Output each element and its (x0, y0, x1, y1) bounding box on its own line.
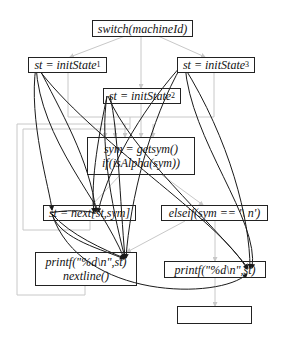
exit-node (177, 306, 252, 324)
printf-right-text: printf("%d\n",st) (174, 263, 255, 277)
init-state-2-text: st = initState (109, 89, 171, 103)
getsym-node: sym = getsym() if(isAlpha(sym)) (87, 137, 195, 175)
init-state-3-subscript: 3 (245, 58, 249, 72)
cfg-diagram: switch(machineId) st = initState1 st = i… (0, 0, 282, 348)
printf-left-line-1: printf("%d\n",st) (45, 255, 126, 269)
next-state-node: st = next[st,sym] (43, 205, 136, 221)
printf-nextline-node: printf("%d\n",st) nextline() (35, 252, 137, 286)
printf-node: printf("%d\n",st) (164, 261, 266, 278)
init-state-3-node: st = initState3 (177, 57, 255, 73)
elseif-text: elseif(sym == '\ n') (169, 206, 261, 220)
init-state-2-subscript: 2 (171, 89, 175, 103)
getsym-line-1: sym = getsym() (104, 142, 178, 156)
switch-node-text: switch(machineId) (98, 22, 187, 36)
init-state-1-subscript: 1 (97, 58, 101, 72)
getsym-line-2: if(isAlpha(sym)) (102, 156, 180, 170)
init-state-2-node: st = initState2 (103, 88, 181, 104)
init-state-3-text: st = initState (183, 58, 245, 72)
switch-node: switch(machineId) (92, 20, 193, 37)
init-state-1-node: st = initState1 (28, 57, 107, 73)
next-state-text: st = next[st,sym] (49, 206, 130, 220)
elseif-node: elseif(sym == '\ n') (161, 205, 268, 221)
init-state-1-text: st = initState (34, 58, 96, 72)
printf-left-line-2: nextline() (63, 269, 109, 283)
